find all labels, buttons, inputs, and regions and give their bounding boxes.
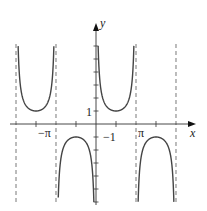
y-neg-one-label: −1 bbox=[103, 130, 116, 144]
csc-branch-curve bbox=[138, 137, 174, 202]
pi-label: π bbox=[138, 126, 144, 140]
csc-branch-curve bbox=[98, 46, 134, 111]
y-axis-label: y bbox=[99, 16, 106, 30]
y-axis-arrow-icon bbox=[93, 23, 99, 31]
y-one-label: 1 bbox=[86, 105, 92, 119]
csc-graph: y x −π π 1 −1 bbox=[0, 0, 207, 211]
x-axis-label: x bbox=[189, 126, 196, 140]
csc-branch-curve bbox=[58, 137, 94, 202]
axes bbox=[10, 23, 196, 205]
csc-branch-curve bbox=[18, 46, 54, 111]
neg-pi-label: −π bbox=[38, 126, 51, 140]
